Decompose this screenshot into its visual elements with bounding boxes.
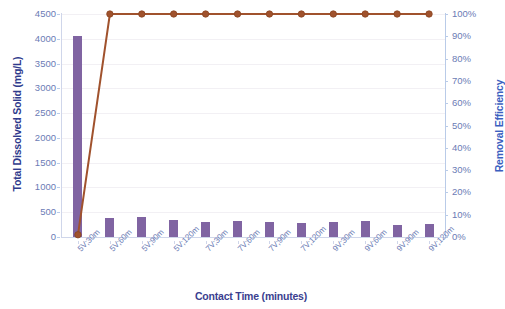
y-axis-right-tick-label: 10% — [452, 210, 486, 220]
y-axis-right-tick-mark — [445, 59, 448, 60]
y-axis-left-tick-label: 2000 — [22, 133, 56, 143]
data-point-marker — [139, 11, 145, 17]
y-axis-right-tick-label: 60% — [452, 98, 486, 108]
y-axis-right-tick-label: 50% — [452, 121, 486, 131]
y-axis-left-tick-label: 0 — [22, 232, 56, 242]
data-point-marker — [266, 11, 272, 17]
y-axis-left-tick-label: 500 — [22, 207, 56, 217]
y-axis-left-tick-mark — [57, 163, 60, 164]
y-axis-left-tick-label: 4500 — [22, 9, 56, 19]
y-axis-right-title: Removal Efficiency — [493, 36, 505, 216]
data-point-marker — [330, 11, 336, 17]
y-axis-left-tick-label: 4000 — [22, 34, 56, 44]
data-point-marker — [202, 11, 208, 17]
y-axis-right-ticks: 0%10%20%30%40%50%60%70%80%90%100% — [452, 0, 488, 309]
y-axis-left-tick-mark — [57, 113, 60, 114]
y-axis-right-tick-mark — [445, 103, 448, 104]
data-point-marker — [234, 11, 240, 17]
y-axis-left-tick-mark — [57, 138, 60, 139]
line-series-removal-efficiency — [62, 14, 445, 237]
y-axis-left-tick-label: 1500 — [22, 158, 56, 168]
x-axis-title: Contact Time (minutes) — [0, 290, 502, 302]
y-axis-right-tick-label: 30% — [452, 165, 486, 175]
y-axis-right-tick-label: 0% — [452, 232, 486, 242]
y-axis-right-tick-label: 80% — [452, 54, 486, 64]
y-axis-left-tick-mark — [57, 88, 60, 89]
y-axis-right-tick-mark — [445, 36, 448, 37]
y-axis-right-tick-mark — [445, 126, 448, 127]
y-axis-right-tick-mark — [445, 192, 448, 193]
y-axis-left-tick-mark — [57, 64, 60, 65]
y-axis-right-tick-mark — [445, 14, 448, 15]
y-axis-left-tick-label: 3000 — [22, 83, 56, 93]
line-path — [78, 14, 429, 235]
y-axis-right-tick-label: 20% — [452, 187, 486, 197]
y-axis-left-tick-label: 3500 — [22, 59, 56, 69]
y-axis-right-tick-label: 70% — [452, 76, 486, 86]
data-point-marker — [171, 11, 177, 17]
y-axis-right-tick-label: 40% — [452, 143, 486, 153]
data-point-marker — [107, 11, 113, 17]
data-point-marker — [362, 11, 368, 17]
y-axis-left-ticks: 050010001500200025003000350040004500 — [20, 0, 56, 309]
y-axis-right-tick-mark — [445, 81, 448, 82]
y-axis-right-tick-mark — [445, 148, 448, 149]
data-point-marker — [426, 11, 432, 17]
x-axis-category-labels: 5V;30m5V;60m5V;90m5V;120m7V;30m7V;60m7V;… — [62, 241, 445, 289]
y-axis-left-tick-mark — [57, 237, 60, 238]
y-axis-left-tick-mark — [57, 39, 60, 40]
y-axis-left-tick-mark — [57, 14, 60, 15]
data-point-marker — [75, 232, 81, 238]
y-axis-right-tick-label: 90% — [452, 31, 486, 41]
data-point-marker — [394, 11, 400, 17]
y-axis-right-tick-mark — [445, 170, 448, 171]
y-axis-left-tick-label: 1000 — [22, 182, 56, 192]
y-axis-left-tick-mark — [57, 212, 60, 213]
y-axis-right-tick-label: 100% — [452, 9, 486, 19]
y-axis-right-tick-mark — [445, 215, 448, 216]
y-axis-left-tick-mark — [57, 187, 60, 188]
data-point-marker — [298, 11, 304, 17]
y-axis-left-tick-label: 2500 — [22, 108, 56, 118]
